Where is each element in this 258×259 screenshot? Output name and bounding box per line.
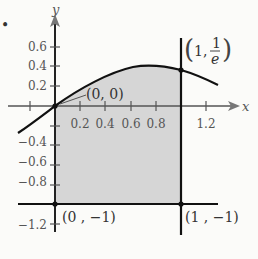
point-0-neg1 bbox=[52, 201, 57, 206]
y-tick-label: −1.2 bbox=[18, 218, 47, 232]
x-tick-label: 0.4 bbox=[95, 117, 114, 131]
y-tick-label: −0.8 bbox=[18, 175, 47, 189]
x-tick-label: 0.8 bbox=[146, 117, 165, 131]
y-tick-label: −0.4 bbox=[18, 135, 48, 149]
x-tick-label: 0.2 bbox=[70, 117, 89, 131]
svg-text:(: ( bbox=[184, 34, 194, 64]
origin-label: (0, 0) bbox=[86, 86, 124, 102]
y-tick-label: −0.6 bbox=[18, 155, 47, 169]
point-label-0-neg1: (0 , −1) bbox=[62, 209, 116, 225]
p1-numerator: 1 bbox=[212, 35, 221, 51]
point-label-1-1e: ( 1, 1 e ) bbox=[184, 34, 232, 67]
svg-text:): ) bbox=[222, 34, 232, 64]
point-1-neg1 bbox=[178, 201, 183, 206]
x-tick-label: 0.6 bbox=[121, 117, 140, 131]
p1-denominator: e bbox=[211, 51, 219, 67]
graph: 0.2 0.4 0.6 0.8 1.2 0.6 0.4 0.2 −0.4 −0.… bbox=[0, 0, 258, 259]
y-axis-label: y bbox=[51, 2, 60, 17]
y-tick-label: 0.2 bbox=[28, 79, 47, 93]
point-origin bbox=[52, 103, 57, 108]
p1-x: 1, bbox=[194, 43, 207, 59]
point-label-1-neg1: (1 , −1) bbox=[185, 209, 239, 225]
bullet: • bbox=[1, 17, 9, 33]
x-tick-label: 1.2 bbox=[196, 117, 215, 131]
y-tick-label: 0.6 bbox=[28, 40, 47, 54]
point-1-1e bbox=[178, 67, 183, 72]
y-tick-label: 0.4 bbox=[28, 59, 47, 73]
x-axis-label: x bbox=[242, 99, 250, 114]
